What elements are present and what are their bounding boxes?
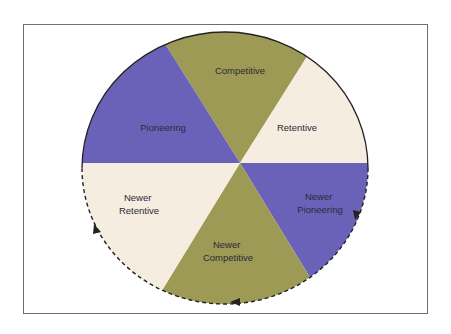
label-pioneering: Pioneering: [140, 122, 185, 133]
label-retentive: Retentive: [277, 122, 317, 133]
cycle-wheel-diagram: Competitive Retentive Newer Pioneering N…: [0, 0, 451, 334]
label-competitive: Competitive: [215, 65, 265, 76]
